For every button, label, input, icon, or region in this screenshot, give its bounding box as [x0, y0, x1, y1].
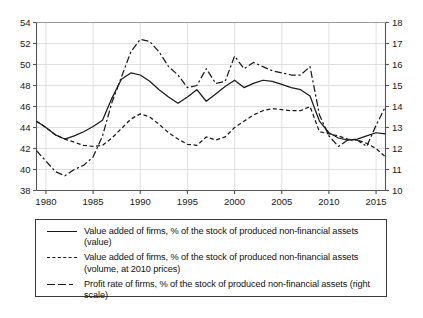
- svg-text:1995: 1995: [177, 196, 198, 207]
- svg-text:2000: 2000: [224, 196, 245, 207]
- legend-label-profit-rate: Profit rate of firms, % of the stock of …: [84, 279, 384, 301]
- svg-text:15: 15: [392, 80, 403, 91]
- svg-text:10: 10: [392, 185, 403, 196]
- svg-text:2015: 2015: [365, 196, 386, 207]
- legend-swatch-dashed-icon: [47, 252, 77, 263]
- legend: Value added of firms, % of the stock of …: [35, 219, 387, 297]
- legend-item-volume: Value added of firms, % of the stock of …: [36, 252, 386, 274]
- svg-text:52: 52: [20, 38, 31, 49]
- legend-item-value: Value added of firms, % of the stock of …: [36, 226, 386, 248]
- svg-text:2005: 2005: [271, 196, 292, 207]
- legend-item-profit-rate: Profit rate of firms, % of the stock of …: [36, 279, 386, 301]
- legend-swatch-solid-icon: [47, 226, 77, 237]
- svg-text:50: 50: [20, 59, 31, 70]
- svg-text:38: 38: [20, 185, 31, 196]
- legend-label-volume: Value added of firms, % of the stock of …: [84, 252, 384, 274]
- svg-text:46: 46: [20, 101, 31, 112]
- svg-text:54: 54: [20, 17, 31, 28]
- legend-label-value: Value added of firms, % of the stock of …: [84, 226, 384, 248]
- legend-swatch-dashdot-icon: [47, 279, 77, 290]
- svg-text:40: 40: [20, 164, 31, 175]
- svg-text:14: 14: [392, 101, 403, 112]
- svg-text:16: 16: [392, 59, 403, 70]
- svg-text:42: 42: [20, 143, 31, 154]
- svg-text:11: 11: [392, 164, 402, 175]
- svg-text:44: 44: [20, 122, 31, 133]
- svg-text:1990: 1990: [130, 196, 151, 207]
- svg-text:1980: 1980: [35, 196, 56, 207]
- svg-text:17: 17: [392, 38, 403, 49]
- svg-text:13: 13: [392, 122, 403, 133]
- svg-text:48: 48: [20, 80, 31, 91]
- svg-text:12: 12: [392, 143, 403, 154]
- svg-text:18: 18: [392, 17, 403, 28]
- svg-text:2010: 2010: [318, 196, 339, 207]
- svg-text:1985: 1985: [83, 196, 104, 207]
